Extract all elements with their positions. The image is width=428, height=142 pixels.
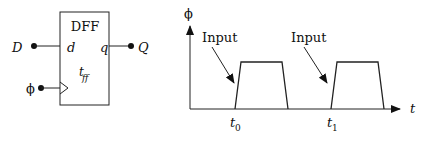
figure: DFF d q t ff D Q ϕ ϕ t Input Input t 0 t… xyxy=(0,0,428,142)
pulse-2 xyxy=(331,62,384,109)
pulse-1 xyxy=(235,62,288,109)
signal-phi: ϕ xyxy=(26,81,35,96)
dff-block: DFF d q t ff D Q ϕ xyxy=(11,12,149,105)
signal-Q: Q xyxy=(138,40,149,55)
annotation-arrow-2 xyxy=(304,47,327,83)
port-d: d xyxy=(67,40,75,55)
output-terminal-icon xyxy=(128,43,134,49)
annotation-input-1: Input xyxy=(202,30,238,45)
signal-D: D xyxy=(11,40,23,55)
x-axis-label: t xyxy=(410,101,416,116)
tick-t0-sub: 0 xyxy=(235,123,241,133)
annotation-arrow-1 xyxy=(212,47,234,83)
annotation-input-2: Input xyxy=(291,30,327,45)
delay-sub: ff xyxy=(81,73,90,83)
port-q: q xyxy=(100,40,108,55)
y-axis-label: ϕ xyxy=(184,6,193,21)
clock-triangle-icon xyxy=(60,82,68,94)
dff-title: DFF xyxy=(71,19,99,34)
timing-diagram: ϕ t Input Input t 0 t 1 xyxy=(184,6,416,133)
tick-t1-sub: 1 xyxy=(332,123,338,133)
